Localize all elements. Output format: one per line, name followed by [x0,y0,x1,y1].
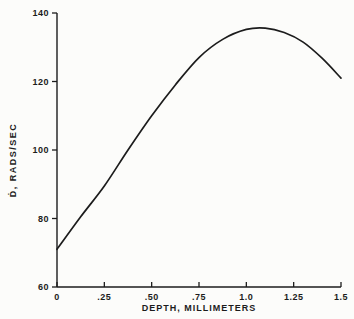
x-tick-label: .50 [145,292,159,302]
y-tick-label: 100 [32,145,49,155]
x-axis-title: DEPTH, MILLIMETERS [57,303,341,313]
x-tick-label: .75 [192,292,206,302]
x-tick-label: 0 [54,292,60,302]
x-tick-label: .25 [97,292,111,302]
series-curve-dose-rate-vs-depth [57,28,341,250]
x-tick-label: 1.25 [284,292,304,302]
x-tick-label: 1.5 [334,292,348,302]
x-tick-label: 1.0 [239,292,253,302]
chart-canvas: 0.25.50.751.01.251.56080100120140 [0,0,354,319]
y-tick-label: 60 [38,282,49,292]
y-axis-title: Ḋ, RADS/SEC [8,123,18,198]
y-tick-label: 140 [32,8,49,18]
y-tick-label: 80 [38,214,49,224]
y-tick-label: 120 [32,77,49,87]
chart-figure: 0.25.50.751.01.251.56080100120140 DEPTH,… [0,0,354,319]
